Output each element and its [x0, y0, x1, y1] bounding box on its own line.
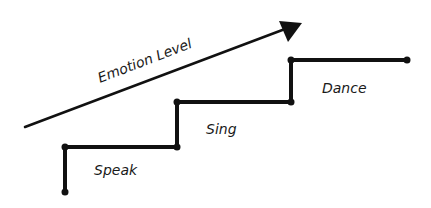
- step-label-speak: Speak: [94, 162, 138, 178]
- step-label-dance: Dance: [322, 80, 367, 96]
- step-label-sing: Sing: [206, 121, 237, 137]
- arrow-label: Emotion Level: [95, 35, 194, 86]
- emotion-level-arrow: [25, 21, 302, 127]
- staircase-diagram: Emotion Level Speak Sing Dance: [0, 0, 431, 208]
- arrowhead-icon: [279, 21, 302, 42]
